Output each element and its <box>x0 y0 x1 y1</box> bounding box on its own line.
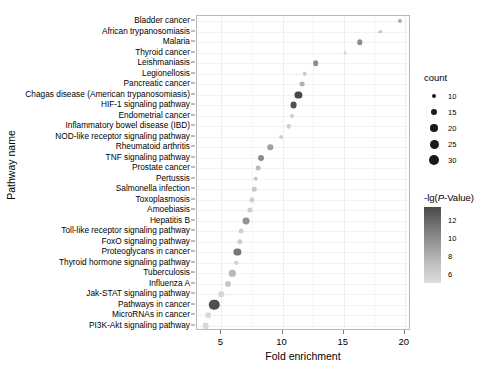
y-tick-mark <box>191 324 195 325</box>
y-gridline <box>197 242 409 243</box>
y-tick-label: MicroRNAs in cancer <box>112 310 190 319</box>
y-tick-label: Rheumatoid arthritis <box>116 142 190 151</box>
colorbar-tick-label: 6 <box>448 270 452 279</box>
colorbar-tick-label: 10 <box>448 234 456 243</box>
y-gridline <box>197 53 409 54</box>
y-tick-label: NOD-like receptor signaling pathway <box>55 131 190 140</box>
size-legend-dot-wrap <box>424 109 444 115</box>
size-legend-dot <box>430 124 438 132</box>
y-tick-label: Jak-STAT signaling pathway <box>86 289 190 298</box>
y-gridline <box>197 168 409 169</box>
x-tick-mark <box>343 330 344 334</box>
y-tick-mark <box>191 156 195 157</box>
data-point <box>379 30 382 33</box>
x-tick-label: 10 <box>276 336 287 347</box>
x-tick-mark <box>282 330 283 334</box>
data-point <box>343 51 346 54</box>
color-legend-title: -lg(P-Value) <box>424 192 496 203</box>
y-tick-label: Toxoplasmosis <box>136 194 190 203</box>
size-legend-row: 15 <box>424 104 494 120</box>
y-gridline <box>197 315 409 316</box>
size-legend-dot-wrap <box>424 155 444 166</box>
y-gridline <box>197 305 409 306</box>
data-point <box>398 19 402 23</box>
y-gridline <box>197 200 409 201</box>
data-point <box>256 166 261 171</box>
y-tick-mark <box>191 125 195 126</box>
y-tick-mark <box>191 314 195 315</box>
x-axis-title: Fold enrichment <box>196 350 410 362</box>
y-tick-mark <box>191 41 195 42</box>
data-point <box>209 300 220 311</box>
y-tick-label: Tuberculosis <box>143 268 190 277</box>
y-tick-mark <box>191 272 195 273</box>
y-tick-label: Amoebiasis <box>147 205 190 214</box>
y-tick-mark <box>191 251 195 252</box>
y-tick-mark <box>191 198 195 199</box>
size-legend-row: 25 <box>424 136 494 152</box>
y-gridline <box>197 221 409 222</box>
y-gridline <box>197 63 409 64</box>
y-tick-label: Pathways in cancer <box>118 299 190 308</box>
y-tick-label: PI3K-Akt signaling pathway <box>89 320 190 329</box>
y-tick-label: Legionellosis <box>142 68 190 77</box>
size-legend: count 1015202530 <box>424 72 494 168</box>
y-tick-mark <box>191 230 195 231</box>
data-point <box>357 40 362 45</box>
data-point <box>313 60 319 66</box>
y-tick-label: Prostate cancer <box>132 163 190 172</box>
y-axis-tick-labels: Bladder cancerAfrican trypanosomiasisMal… <box>0 0 190 373</box>
colorbar-gradient <box>424 207 441 283</box>
x-tick-label: 20 <box>399 336 410 347</box>
data-point <box>219 292 224 297</box>
data-point <box>286 124 291 129</box>
y-gridline <box>197 179 409 180</box>
y-gridline <box>197 294 409 295</box>
y-tick-label: Bladder cancer <box>134 16 190 25</box>
y-tick-label: Chagas disease (American trypanosomiasis… <box>25 89 190 98</box>
y-gridline <box>197 158 409 159</box>
data-point <box>225 281 231 287</box>
data-point <box>300 82 305 87</box>
y-gridline <box>197 105 409 106</box>
y-gridline <box>197 42 409 43</box>
size-legend-label: 10 <box>448 92 456 101</box>
size-legend-label: 15 <box>448 108 456 117</box>
y-tick-mark <box>191 188 195 189</box>
y-tick-label: Pertussis <box>156 173 190 182</box>
data-point <box>295 91 302 98</box>
y-tick-mark <box>191 83 195 84</box>
color-legend: -lg(P-Value) 121086 <box>424 192 496 283</box>
y-tick-label: Inflammatory bowel disease (IBD) <box>66 121 191 130</box>
y-tick-mark <box>191 51 195 52</box>
size-legend-dot <box>431 109 437 115</box>
y-tick-label: HIF-1 signaling pathway <box>101 100 190 109</box>
y-gridline <box>197 252 409 253</box>
data-point <box>229 270 235 276</box>
y-tick-mark <box>191 62 195 63</box>
size-legend-dot-wrap <box>424 94 444 99</box>
y-gridline <box>197 126 409 127</box>
y-tick-mark <box>191 20 195 21</box>
y-tick-mark <box>191 177 195 178</box>
y-tick-mark <box>191 293 195 294</box>
data-point <box>302 72 307 77</box>
colorbar-tick-label: 8 <box>448 252 452 261</box>
y-tick-label: Toll-like receptor signaling pathway <box>61 226 190 235</box>
y-gridline <box>197 231 409 232</box>
y-gridline <box>197 189 409 190</box>
y-tick-label: Endometrial cancer <box>119 110 190 119</box>
data-point <box>202 322 209 329</box>
y-gridline <box>197 95 409 96</box>
data-point <box>239 229 244 234</box>
size-legend-dot-wrap <box>424 140 444 149</box>
size-legend-row: 20 <box>424 120 494 136</box>
size-legend-row: 30 <box>424 152 494 168</box>
size-legend-label: 25 <box>448 140 456 149</box>
size-legend-dot <box>430 140 439 149</box>
y-tick-label: Proteoglycans in cancer <box>101 247 190 256</box>
y-tick-label: Thyroid hormone signaling pathway <box>59 257 190 266</box>
data-point <box>252 187 257 192</box>
y-tick-mark <box>191 30 195 31</box>
bubble-chart-figure: Pathway name Bladder cancerAfrican trypa… <box>0 0 497 373</box>
